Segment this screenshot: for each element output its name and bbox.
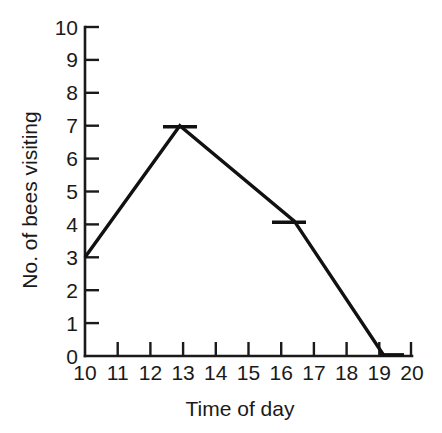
y-tick-label-9: 9 [66,48,78,71]
x-tick-label-16: 16 [270,361,293,384]
y-tick-label-4: 4 [66,213,78,236]
x-tick-label-17: 17 [302,361,325,384]
y-tick-label-10: 10 [55,16,78,39]
y-tick-label-1: 1 [66,312,78,335]
y-axis-ticks [85,27,99,323]
chart-canvas: 10 9 8 7 6 5 4 3 2 1 0 [0,0,442,433]
y-tick-label-5: 5 [66,180,78,203]
x-tick-label-14: 14 [204,361,228,384]
y-tick-labels: 10 9 8 7 6 5 4 3 2 1 0 [55,16,79,368]
y-tick-label-7: 7 [66,114,78,137]
bee-visits-line-chart: 10 9 8 7 6 5 4 3 2 1 0 [0,0,442,433]
data-series-bees [85,126,404,356]
x-tick-label-12: 12 [139,361,162,384]
x-tick-labels: 10 11 12 13 14 15 16 17 18 19 20 [73,361,423,384]
bee-visits-line [85,126,384,356]
x-axis-ticks [118,342,411,356]
x-axis-title: Time of day [186,397,295,420]
y-axis-title: No. of bees visiting [18,111,41,288]
x-tick-label-15: 15 [237,361,260,384]
x-axis: 10 11 12 13 14 15 16 17 18 19 20 [73,342,423,384]
y-tick-label-8: 8 [66,81,78,104]
x-tick-label-10: 10 [73,361,96,384]
x-tick-label-11: 11 [107,361,129,384]
y-tick-label-6: 6 [66,147,78,170]
x-tick-label-19: 19 [368,361,391,384]
y-axis: 10 9 8 7 6 5 4 3 2 1 0 [55,16,99,368]
x-tick-label-20: 20 [400,361,423,384]
y-tick-label-3: 3 [66,246,78,269]
x-tick-label-18: 18 [335,361,358,384]
x-tick-label-13: 13 [171,361,194,384]
y-tick-label-2: 2 [66,279,78,302]
